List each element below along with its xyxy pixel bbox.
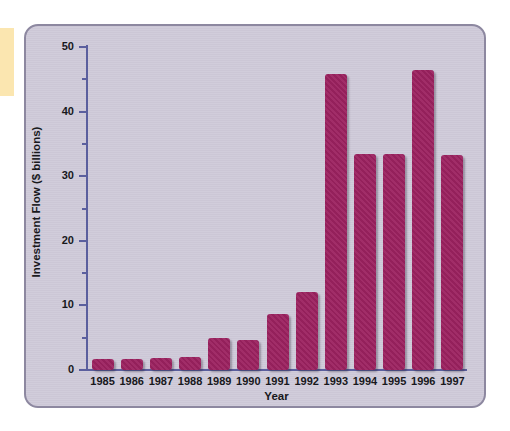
y-axis-major-tick: [79, 175, 87, 177]
y-axis-title: Investment Flow ($ billions): [30, 107, 42, 297]
x-axis-tick-label: 1994: [350, 375, 379, 388]
y-axis-tick-label: 40: [46, 106, 74, 117]
x-axis-tick-label: 1995: [380, 375, 409, 388]
bar-1986: [121, 359, 143, 370]
y-axis-tick-label: 30: [46, 170, 74, 181]
bar-1989: [208, 338, 230, 370]
bar-1985: [92, 359, 114, 370]
bar-1995: [383, 154, 405, 370]
x-axis-tick-label: 1989: [205, 375, 234, 388]
y-axis-minor-tick: [82, 337, 87, 339]
y-axis-tick-label: 0: [46, 364, 74, 375]
x-axis-tick-label: 1993: [321, 375, 350, 388]
bar-chart: 01020304050 Investment Flow ($ billions)…: [0, 0, 510, 431]
y-axis-minor-tick: [82, 208, 87, 210]
bar-1993: [325, 74, 347, 370]
y-axis-major-tick: [79, 240, 87, 242]
bar-1988: [179, 357, 201, 370]
y-axis-major-tick: [79, 304, 87, 306]
y-axis-tick-label: 50: [46, 41, 74, 52]
bar-1994: [354, 154, 376, 370]
x-axis-title: Year: [86, 390, 467, 402]
bar-1991: [267, 314, 289, 370]
y-axis-tick-labels: 01020304050: [44, 0, 74, 431]
x-axis-tick-label: 1987: [146, 375, 175, 388]
y-axis-major-tick: [79, 46, 87, 48]
bar-1997: [441, 155, 463, 370]
y-axis-minor-tick: [82, 272, 87, 274]
bar-1990: [237, 340, 259, 370]
x-axis-tick-label: 1990: [234, 375, 263, 388]
y-axis-major-tick: [79, 369, 87, 371]
y-axis-minor-tick: [82, 78, 87, 80]
y-axis-tick-label: 10: [46, 299, 74, 310]
x-axis-tick-label: 1986: [117, 375, 146, 388]
bar-1996: [412, 70, 434, 370]
x-axis-tick-label: 1991: [263, 375, 292, 388]
y-axis-major-tick: [79, 111, 87, 113]
y-axis-tick-label: 20: [46, 235, 74, 246]
bar-1992: [296, 292, 318, 370]
x-axis-tick-label: 1988: [175, 375, 204, 388]
x-axis-tick-label: 1985: [88, 375, 117, 388]
x-axis-tick-label: 1996: [409, 375, 438, 388]
y-axis-minor-tick: [82, 143, 87, 145]
x-axis-tick-label: 1997: [438, 375, 467, 388]
x-axis-tick-label: 1992: [292, 375, 321, 388]
bar-1987: [150, 358, 172, 370]
